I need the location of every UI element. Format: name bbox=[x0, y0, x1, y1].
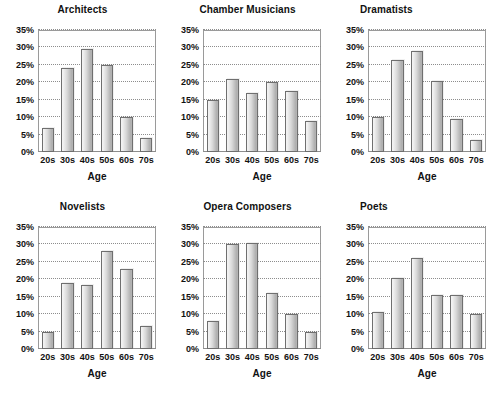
bar bbox=[411, 51, 423, 152]
chart-panel-dramatists: Dramatists0%5%10%15%20%25%30%35%20s30s40… bbox=[330, 0, 486, 197]
bar bbox=[81, 285, 93, 349]
bar bbox=[411, 258, 423, 349]
y-axis-tick-label: 0% bbox=[21, 344, 34, 354]
y-axis-tick-label: 35% bbox=[16, 25, 34, 35]
bar bbox=[285, 314, 297, 349]
chart-title: Novelists bbox=[0, 201, 165, 212]
x-axis-tick-label: 40s bbox=[80, 352, 95, 362]
y-axis-tick-label: 5% bbox=[21, 327, 34, 337]
chart-panel-architects: Architects0%5%10%15%20%25%30%35%20s30s40… bbox=[0, 0, 165, 197]
bar bbox=[305, 121, 317, 152]
y-axis-tick-label: 25% bbox=[16, 60, 34, 70]
y-axis-tick-label: 35% bbox=[181, 25, 199, 35]
x-axis-tick-label: 30s bbox=[225, 352, 240, 362]
y-axis-tick-label: 5% bbox=[351, 327, 364, 337]
y-axis-tick-label: 20% bbox=[16, 274, 34, 284]
bar bbox=[246, 243, 258, 349]
y-axis-tick-label: 0% bbox=[351, 344, 364, 354]
y-axis-tick-label: 35% bbox=[346, 25, 364, 35]
x-axis-tick-label: 30s bbox=[225, 155, 240, 165]
bar bbox=[450, 295, 462, 349]
y-axis-tick-label: 20% bbox=[346, 274, 364, 284]
y-axis-tick-label: 30% bbox=[16, 42, 34, 52]
x-axis-tick-label: 40s bbox=[245, 352, 260, 362]
chart-figure: Architects0%5%10%15%20%25%30%35%20s30s40… bbox=[0, 0, 486, 394]
bar bbox=[470, 140, 482, 152]
x-axis-tick-label: 50s bbox=[264, 155, 279, 165]
x-axis-tick-label: 70s bbox=[304, 155, 319, 165]
x-axis-tick-label: 20s bbox=[40, 155, 55, 165]
bar bbox=[42, 332, 54, 349]
y-axis-tick-label: 25% bbox=[346, 257, 364, 267]
bar bbox=[226, 79, 238, 152]
plot-wrapper: 0%5%10%15%20%25%30%35%20s30s40s50s60s70s… bbox=[38, 227, 156, 349]
bar bbox=[140, 138, 152, 152]
x-axis-tick-label: 20s bbox=[370, 155, 385, 165]
y-axis-tick-label: 20% bbox=[181, 274, 199, 284]
x-axis-tick-label: 60s bbox=[449, 155, 464, 165]
bar bbox=[226, 244, 238, 349]
x-axis-tick-label: 50s bbox=[99, 155, 114, 165]
chart-title: Poets bbox=[330, 201, 486, 212]
bar bbox=[207, 321, 219, 349]
bar bbox=[450, 119, 462, 152]
y-axis-tick-label: 5% bbox=[351, 130, 364, 140]
y-axis-tick-label: 0% bbox=[186, 344, 199, 354]
y-axis-tick-label: 10% bbox=[346, 112, 364, 122]
y-axis-tick-label: 35% bbox=[181, 222, 199, 232]
x-axis-tick-label: 40s bbox=[80, 155, 95, 165]
y-axis-tick-label: 25% bbox=[181, 60, 199, 70]
y-axis-tick-label: 10% bbox=[16, 112, 34, 122]
y-axis-tick-label: 20% bbox=[16, 77, 34, 87]
y-axis-tick-label: 15% bbox=[346, 292, 364, 302]
x-axis-tick-label: 30s bbox=[390, 352, 405, 362]
bar bbox=[246, 93, 258, 152]
x-axis-label: Age bbox=[368, 171, 486, 182]
x-axis-tick-label: 60s bbox=[284, 155, 299, 165]
bar bbox=[372, 117, 384, 152]
x-axis-tick-label: 40s bbox=[245, 155, 260, 165]
y-axis-tick-label: 15% bbox=[16, 95, 34, 105]
bar bbox=[266, 82, 278, 152]
y-axis-tick-label: 15% bbox=[181, 292, 199, 302]
plot-wrapper: 0%5%10%15%20%25%30%35%20s30s40s50s60s70s… bbox=[203, 30, 321, 152]
y-axis-tick-label: 35% bbox=[16, 222, 34, 232]
y-axis-tick-label: 25% bbox=[181, 257, 199, 267]
x-axis-tick-label: 30s bbox=[60, 352, 75, 362]
x-axis-tick-label: 60s bbox=[284, 352, 299, 362]
y-axis-tick-label: 10% bbox=[181, 309, 199, 319]
y-axis-tick-label: 30% bbox=[346, 42, 364, 52]
bar bbox=[61, 283, 73, 349]
y-axis-tick-label: 5% bbox=[21, 130, 34, 140]
bar bbox=[207, 100, 219, 152]
chart-title: Architects bbox=[0, 4, 165, 15]
x-axis-tick-label: 20s bbox=[205, 352, 220, 362]
bar bbox=[120, 117, 132, 152]
x-axis-tick-label: 50s bbox=[429, 352, 444, 362]
bar bbox=[431, 295, 443, 349]
x-axis-tick-label: 40s bbox=[410, 155, 425, 165]
bar bbox=[431, 81, 443, 152]
bar bbox=[305, 332, 317, 349]
bar bbox=[391, 278, 403, 349]
plot-wrapper: 0%5%10%15%20%25%30%35%20s30s40s50s60s70s… bbox=[368, 30, 486, 152]
y-axis-tick-label: 30% bbox=[16, 239, 34, 249]
plot-wrapper: 0%5%10%15%20%25%30%35%20s30s40s50s60s70s… bbox=[368, 227, 486, 349]
bar bbox=[120, 269, 132, 349]
y-axis-tick-label: 30% bbox=[346, 239, 364, 249]
y-axis-tick-label: 10% bbox=[346, 309, 364, 319]
y-axis-tick-label: 25% bbox=[346, 60, 364, 70]
bar-series bbox=[368, 30, 486, 152]
chart-panel-opera-composers: Opera Composers0%5%10%15%20%25%30%35%20s… bbox=[165, 197, 330, 394]
chart-title: Opera Composers bbox=[165, 201, 330, 212]
y-axis-tick-label: 30% bbox=[181, 42, 199, 52]
bar bbox=[285, 91, 297, 152]
y-axis-tick-label: 30% bbox=[181, 239, 199, 249]
y-axis-tick-label: 10% bbox=[181, 112, 199, 122]
x-axis-tick-label: 40s bbox=[410, 352, 425, 362]
x-axis-tick-label: 70s bbox=[139, 155, 154, 165]
y-axis-tick-label: 0% bbox=[186, 147, 199, 157]
x-axis-tick-label: 60s bbox=[119, 155, 134, 165]
y-axis-tick-label: 0% bbox=[351, 147, 364, 157]
x-axis-label: Age bbox=[38, 368, 156, 379]
